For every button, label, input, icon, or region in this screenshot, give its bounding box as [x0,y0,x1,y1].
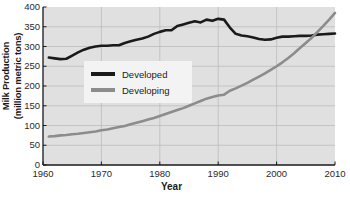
legend-swatch-developing [91,88,115,92]
legend-item-developed: Developed [91,66,186,82]
legend: Developed Developing [84,61,192,103]
legend-label-developing: Developing [122,85,170,96]
legend-swatch-developed [91,72,115,76]
legend-item-developing: Developing [91,82,186,98]
legend-label-developed: Developed [122,69,167,80]
